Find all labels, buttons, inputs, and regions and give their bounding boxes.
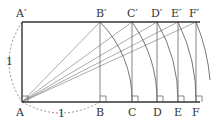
right-angle-marks (22, 96, 202, 102)
label-c-prime: C′ (127, 7, 138, 20)
rays (22, 22, 196, 102)
label-d: D (153, 106, 162, 119)
label-side-length: 1 (6, 55, 13, 68)
label-e-prime: E′ (171, 7, 182, 20)
label-a: A (15, 106, 25, 119)
label-b: B (96, 106, 104, 119)
diagram-canvas: A′ B′ C′ D′ E′ F′ A B C D E F 1 1 (0, 0, 218, 122)
label-b-prime: B′ (96, 7, 107, 20)
label-base-length: 1 (58, 107, 65, 120)
label-c: C (128, 106, 136, 119)
label-e: E (174, 106, 182, 119)
label-a-prime: A′ (15, 7, 27, 20)
label-d-prime: D′ (151, 7, 163, 20)
verticals (100, 22, 196, 102)
label-f: F (192, 106, 200, 119)
label-f-prime: F′ (189, 7, 200, 20)
